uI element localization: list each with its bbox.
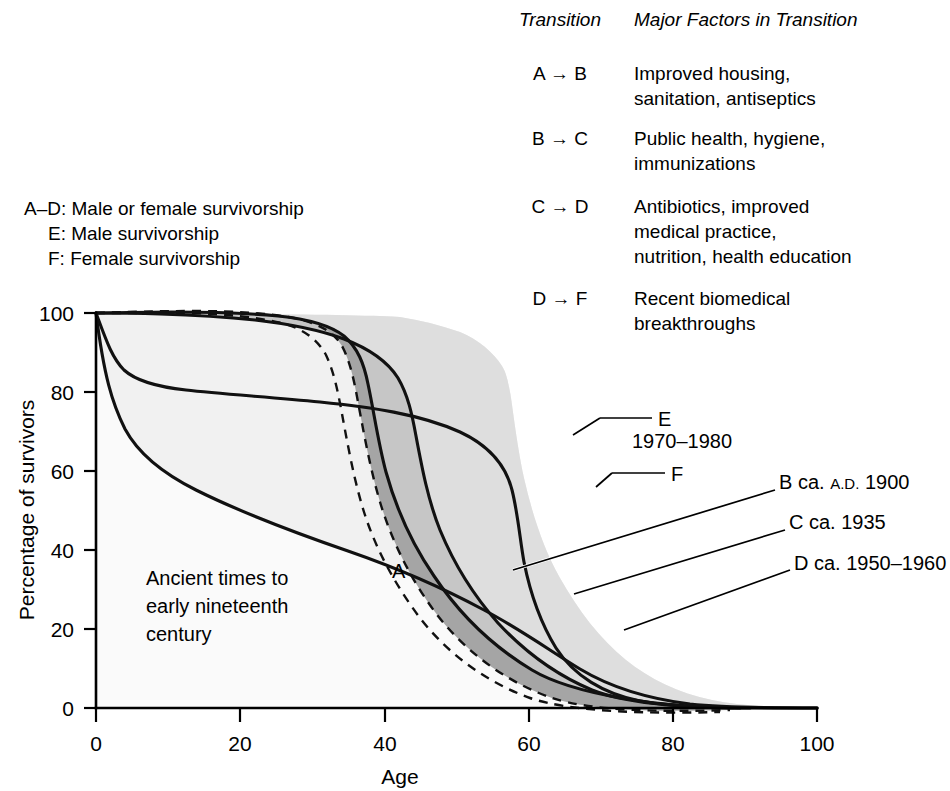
- x-axis-title: Age: [381, 765, 418, 788]
- leader-line-f2: [596, 473, 612, 487]
- x-tick-label-20: 20: [228, 732, 251, 755]
- curve-label-d: D ca. 1950–1960: [794, 552, 946, 574]
- transition-table-row: B → C Public health, hygiene, immunizati…: [532, 128, 825, 174]
- transition-cell-3: D → F: [533, 288, 588, 309]
- transition-cell-0: A → B: [533, 63, 587, 84]
- period-1970-1980: 1970–1980: [632, 430, 732, 452]
- y-tick-label-40: 40: [51, 539, 74, 562]
- curve-label-e: E: [658, 408, 671, 430]
- transition-table-header-transition: Transition: [519, 9, 601, 30]
- y-tick-labels: 100 80 60 40 20 0: [39, 302, 74, 720]
- y-axis-title: Percentage of survivors: [15, 400, 38, 621]
- transition-cell-1: B → C: [532, 128, 588, 149]
- y-tick-label-20: 20: [51, 618, 74, 641]
- transition-table-row: A → B Improved housing, sanitation, anti…: [533, 63, 816, 109]
- x-tick-label-40: 40: [373, 732, 396, 755]
- ancient-times-note-line-1: early nineteenth: [146, 595, 288, 617]
- x-tick-label-0: 0: [90, 732, 102, 755]
- leader-line-e2: [573, 418, 600, 435]
- x-tick-label-60: 60: [517, 732, 540, 755]
- survivorship-legend: A–D: Male or female survivorship E: Male…: [24, 198, 304, 269]
- leader-line-b: [513, 490, 775, 570]
- factors-cell-2-line3: nutrition, health education: [634, 246, 852, 267]
- y-tick-label-60: 60: [51, 460, 74, 483]
- curve-label-b-suffix: 1900: [859, 471, 909, 493]
- legend-line-0: A–D: Male or female survivorship: [24, 198, 304, 219]
- curve-label-b: B ca. A.D. 1900: [779, 471, 909, 493]
- y-tick-label-0: 0: [62, 697, 74, 720]
- transition-table-header-factors: Major Factors in Transition: [634, 9, 858, 30]
- factors-cell-1-line2: immunizations: [634, 153, 755, 174]
- x-tick-labels: 0 20 40 60 80 100: [90, 732, 834, 755]
- factors-cell-1-line1: Public health, hygiene,: [634, 128, 825, 149]
- curve-label-b-era: A.D.: [830, 475, 859, 492]
- transition-table-row: C → D Antibiotics, improved medical prac…: [532, 196, 852, 267]
- factors-cell-2-line1: Antibiotics, improved: [634, 196, 809, 217]
- transition-table: Transition Major Factors in Transition A…: [519, 9, 858, 334]
- factors-cell-0-line1: Improved housing,: [634, 63, 790, 84]
- curve-label-c: C ca. 1935: [789, 511, 886, 533]
- transition-cell-2: C → D: [532, 196, 589, 217]
- factors-cell-2-line2: medical practice,: [634, 221, 777, 242]
- legend-line-1: E: Male survivorship: [48, 223, 219, 244]
- ancient-times-note-line-2: century: [146, 623, 212, 645]
- x-tick-label-80: 80: [661, 732, 684, 755]
- factors-cell-0-line2: sanitation, antiseptics: [634, 88, 816, 109]
- transition-table-row: D → F Recent biomedical breakthroughs: [533, 288, 791, 334]
- y-tick-label-100: 100: [39, 302, 74, 325]
- figure-container: 100 80 60 40 20 0 0 20 40 60 80 100 Age …: [0, 0, 950, 791]
- ancient-times-note-line-0: Ancient times to: [146, 567, 288, 589]
- curve-label-f: F: [671, 463, 683, 485]
- leader-line-c: [574, 530, 785, 594]
- x-tick-label-100: 100: [799, 732, 834, 755]
- factors-cell-3-line2: breakthroughs: [634, 313, 755, 334]
- leader-line-d: [624, 570, 790, 630]
- factors-cell-3-line1: Recent biomedical: [634, 288, 790, 309]
- y-tick-label-80: 80: [51, 381, 74, 404]
- curve-label-a: A: [392, 560, 406, 582]
- legend-line-2: F: Female survivorship: [48, 248, 240, 269]
- curve-label-b-prefix: B ca.: [779, 471, 830, 493]
- survivorship-curve-figure: 100 80 60 40 20 0 0 20 40 60 80 100 Age …: [0, 0, 950, 791]
